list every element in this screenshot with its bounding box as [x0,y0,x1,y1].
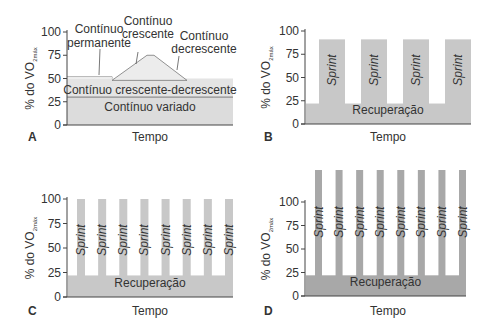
sprint-label: Sprint [451,54,465,86]
x-axis-label: Tempo [370,304,406,318]
label-continuo-decrescente: Contínuo [180,29,229,43]
label-continuo-crescente: crescente [122,27,174,41]
y-tick-label: 50 [48,241,62,255]
panel-b-plot: SprintSprintSprintSprintRecuperação [306,39,471,124]
panel-a-plot: ContínuopermanenteContínuocrescenteContí… [63,14,237,125]
sprint-label: Sprint [95,224,109,256]
sprint-label: Sprint [74,224,88,256]
x-axis-label: Tempo [132,304,168,318]
sprint-label: Sprint [137,224,151,256]
panel-letter: C [28,304,37,318]
y-tick-label: 0 [292,117,299,131]
y-tick-label: 50 [48,72,62,86]
sprint-label: Sprint [116,224,130,256]
y-tick-label: 100 [41,192,61,206]
sprint-label: Sprint [373,206,387,238]
y-tick-label: 100 [279,195,299,209]
y-axis-label: % do VO2máx [259,46,274,109]
y-tick-label: 75 [286,219,300,233]
y-tick-label: 0 [54,290,61,304]
y-tick-label: 75 [48,217,62,231]
y-axis-label: % do VO2máx [259,218,274,281]
sprint-label: Sprint [409,54,423,86]
y-tick-label: 75 [286,47,300,61]
recovery-label: Recuperação [350,275,422,289]
panel-c-plot: SprintSprintSprintSprintSprintSprintSpri… [68,199,236,297]
x-axis-label: Tempo [370,130,406,144]
y-axis-label: % do VO2máx [23,47,38,110]
sprint-label: Sprint [456,206,470,238]
sprint-label: Sprint [414,206,428,238]
recovery-label: Recuperação [352,103,424,117]
y-tick-label: 25 [48,95,62,109]
sprint-label: Sprint [435,206,449,238]
x-axis-label: Tempo [132,130,168,144]
label-continuo-permanente: Contínuo [75,22,124,36]
label-continuo-variado: Contínuo variado [104,100,196,114]
sprint-label: Sprint [367,54,381,86]
y-tick-label: 25 [286,266,300,280]
y-tick-label: 50 [286,71,300,85]
sprint-label: Sprint [201,224,215,256]
y-axis-label: % do VO2máx [23,217,38,280]
sprint-label: Sprint [312,206,326,238]
sprint-label: Sprint [353,206,367,238]
sprint-label: Sprint [180,224,194,256]
y-tick-label: 0 [54,118,61,132]
sprint-label: Sprint [222,224,236,256]
label-continuo-crescente: Contínuo [124,14,173,28]
y-tick-label: 0 [292,289,299,303]
recovery-label: Recuperação [114,276,186,290]
sprint-label: Sprint [325,54,339,86]
sprint-label: Sprint [159,224,173,256]
panel-letter: A [28,130,37,144]
panel-letter: B [264,130,273,144]
y-tick-label: 25 [48,266,62,280]
figure: ContínuopermanenteContínuocrescenteContí… [0,0,495,329]
sprint-label: Sprint [332,206,346,238]
y-tick-label: 25 [286,94,300,108]
label-continuo-decrescente: decrescente [171,42,237,56]
y-tick-label: 75 [48,48,62,62]
label-continuo-crescente-decrescente: Contínuo crescente-decrescente [63,83,237,97]
panel-letter: D [264,304,273,318]
y-tick-label: 50 [286,242,300,256]
y-tick-label: 100 [41,25,61,39]
panel-d-plot: SprintSprintSprintSprintSprintSprintSpri… [306,170,470,296]
y-tick-label: 100 [279,24,299,38]
sprint-label: Sprint [394,206,408,238]
